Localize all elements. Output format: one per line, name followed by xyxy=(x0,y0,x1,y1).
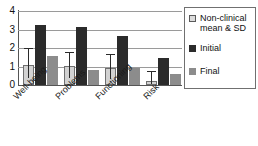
legend-label-initial: Initial xyxy=(200,43,221,53)
legend-swatch-initial-icon xyxy=(189,45,196,52)
bar-group-risk xyxy=(145,11,183,85)
bar-chart: 4 3 2 1 0 Well-being Problems Functionin… xyxy=(0,0,258,146)
legend: Non-clinical mean & SD Initial Final xyxy=(184,7,256,89)
bar-risk-initial xyxy=(158,58,169,85)
error-bar-cap xyxy=(65,52,74,53)
error-bar-cap xyxy=(24,48,33,49)
x-axis-category-labels: Well-being Problems Functioning Risk xyxy=(0,86,182,144)
x-label-risk: Risk xyxy=(142,83,161,102)
error-bar-whisker xyxy=(69,52,70,79)
error-bar-cap xyxy=(106,54,115,55)
bar-well-being-final xyxy=(47,56,58,85)
y-tick-label-2: 2 xyxy=(1,43,15,53)
bar-problems-final xyxy=(88,70,99,85)
legend-label-nonclinical: Non-clinical mean & SD xyxy=(200,13,253,33)
y-tick-label-3: 3 xyxy=(1,25,15,35)
error-bar-whisker xyxy=(28,48,29,78)
y-tick-label-4: 4 xyxy=(1,6,15,16)
legend-entry-final: Final xyxy=(189,66,253,76)
error-bar-whisker xyxy=(151,71,152,83)
legend-entry-non-clinical: Non-clinical mean & SD xyxy=(189,13,253,33)
error-bar-cap xyxy=(147,71,156,72)
legend-label-final: Final xyxy=(200,66,220,76)
legend-entry-initial: Initial xyxy=(189,43,253,53)
legend-swatch-final-icon xyxy=(189,68,196,75)
y-axis-tick-labels: 4 3 2 1 0 xyxy=(0,11,15,85)
bar-risk-final xyxy=(170,74,181,85)
y-tick-label-1: 1 xyxy=(1,62,15,72)
legend-swatch-nonclinical-icon xyxy=(189,15,196,22)
